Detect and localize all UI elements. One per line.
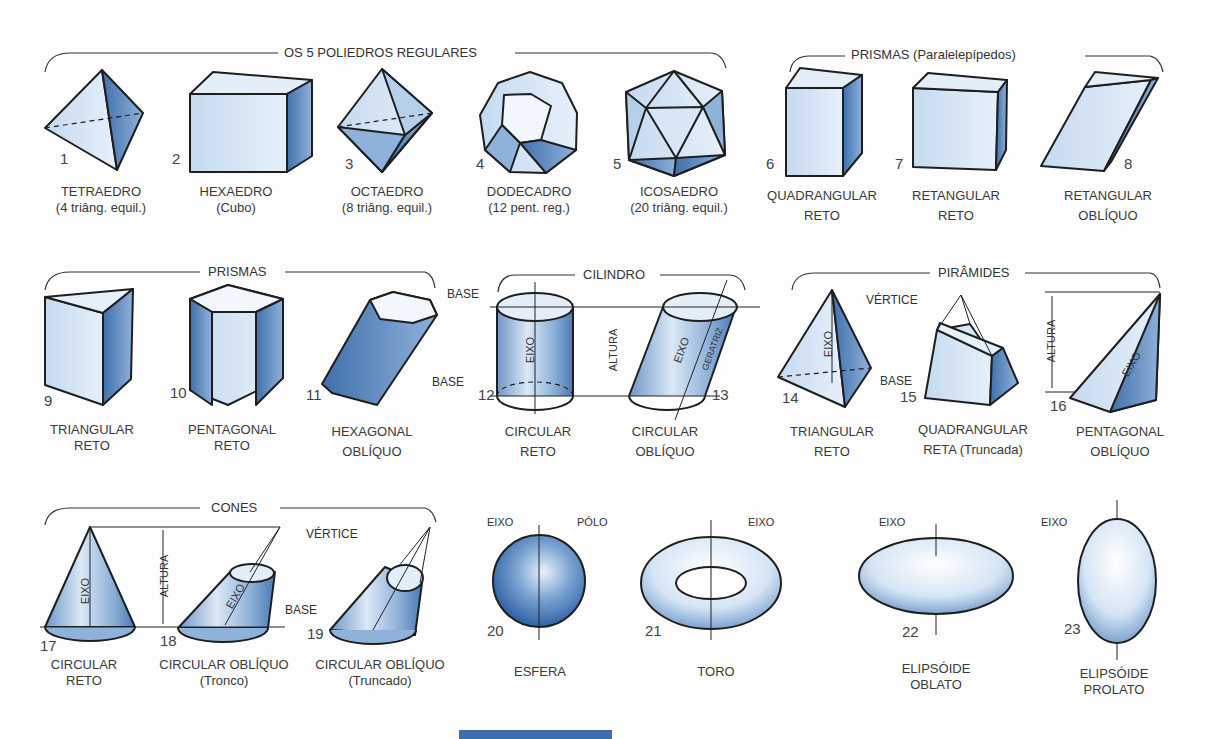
solid-label-18: CIRCULAR OBLÍQUO(Tronco) xyxy=(159,657,288,689)
solid-number: 11 xyxy=(306,386,322,403)
solid-number: 8 xyxy=(1124,155,1132,172)
group-title-piramides: PIRÂMIDES xyxy=(932,265,1016,280)
solid-number: 13 xyxy=(712,386,729,403)
solid-label-9: TRIANGULARRETO xyxy=(50,422,134,454)
annotation-vertice: VÉRTICE xyxy=(866,293,918,307)
solid-label-23: ELIPSÓIDEPROLATO xyxy=(1080,666,1149,698)
annotation-base: BASE xyxy=(447,287,479,301)
annotation-altura: ALTURA xyxy=(1045,320,1057,363)
solid-label-19: CIRCULAR OBLÍQUO(Truncado) xyxy=(315,657,444,689)
solid-label-22: ELIPSÓIDEOBLATO xyxy=(902,661,971,693)
solid-number: 2 xyxy=(172,150,180,167)
solid-label-12: CIRCULARRETO xyxy=(505,422,571,462)
group-title-cilindro: CILINDRO xyxy=(577,267,651,282)
solid-label-dodecaedro: DODECADRO(12 pent. reg.) xyxy=(487,184,572,216)
solid-label-15: QUADRANGULARRETA (Truncada) xyxy=(918,420,1028,460)
solid-number: 3 xyxy=(345,155,353,172)
solid-number: 14 xyxy=(782,389,799,406)
annotation-base: BASE xyxy=(285,603,317,617)
solid-label-13: CIRCULAROBLÍQUO xyxy=(632,422,698,462)
solid-label-21: TORO xyxy=(697,664,734,680)
solids-drawing xyxy=(0,0,1208,739)
solid-number: 22 xyxy=(902,623,919,640)
annotation-eixo: EIXO xyxy=(748,516,774,528)
solid-label-hexaedro: HEXAEDRO(Cubo) xyxy=(200,184,273,216)
solid-number: 9 xyxy=(44,392,52,409)
annotation-altura: ALTURA xyxy=(607,329,619,372)
solid-label-17: CIRCULARRETO xyxy=(51,657,117,689)
annotation-altura: ALTURA xyxy=(158,555,170,598)
solid-number: 18 xyxy=(160,632,177,649)
annotation-eixo: EIXO xyxy=(487,516,513,528)
solid-number: 21 xyxy=(645,622,662,639)
solid-label-7: RETANGULARRETO xyxy=(912,186,1000,226)
solid-label-icosaedro: ICOSAEDRO(20 triâng. equil.) xyxy=(630,184,728,216)
solid-number: 20 xyxy=(487,622,504,639)
solid-label-8: RETANGULAROBLÍQUO xyxy=(1064,186,1152,226)
annotation-vertice: VÉRTICE xyxy=(306,527,358,541)
solid-label-11: HEXAGONALOBLÍQUO xyxy=(332,422,413,462)
solid-label-6: QUADRANGULARRETO xyxy=(767,186,877,226)
solid-number: 10 xyxy=(170,384,187,401)
group-title-cones: CONES xyxy=(205,500,263,515)
solid-label-16: PENTAGONALOBLÍQUO xyxy=(1076,422,1164,462)
solid-number: 6 xyxy=(766,155,774,172)
solid-number: 5 xyxy=(613,155,621,172)
solid-label-20: ESFERA xyxy=(514,664,566,680)
solid-number: 15 xyxy=(900,388,917,405)
annotation-polo: PÓLO xyxy=(577,516,608,528)
solid-number: 12 xyxy=(478,386,495,403)
solid-number: 1 xyxy=(60,150,68,167)
annotation-eixo: EIXO xyxy=(524,337,536,363)
solid-label-tetraedro: TETRAEDRO(4 triâng. equil.) xyxy=(56,184,146,216)
solid-label-octaedro: OCTAEDRO(8 triâng. equil.) xyxy=(342,184,432,216)
solid-label-14: TRIANGULARRETO xyxy=(790,422,874,462)
solid-number: 19 xyxy=(307,625,324,642)
solid-number: 4 xyxy=(476,155,484,172)
solid-number: 17 xyxy=(40,637,57,654)
annotation-eixo: EIXO xyxy=(822,331,834,357)
color-bar xyxy=(459,730,612,739)
annotation-eixo: EIXO xyxy=(879,516,905,528)
annotation-base: BASE xyxy=(880,374,912,388)
group-title-poliedros: OS 5 POLIEDROS REGULARES xyxy=(278,45,483,60)
annotation-eixo: EIXO xyxy=(79,578,91,604)
solid-number: 7 xyxy=(895,155,903,172)
solid-number: 16 xyxy=(1050,397,1067,414)
group-title-prismas: PRISMAS xyxy=(202,264,273,279)
solid-label-10: PENTAGONALRETO xyxy=(188,422,276,454)
annotation-base: BASE xyxy=(432,375,464,389)
group-title-paralelepipedos: PRISMAS (Paralelepípedos) xyxy=(845,47,1022,62)
annotation-eixo: EIXO xyxy=(1041,516,1067,528)
solid-number: 23 xyxy=(1064,620,1081,637)
